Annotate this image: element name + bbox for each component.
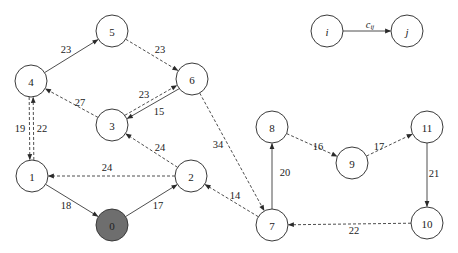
edge-3-to-6 — [125, 85, 177, 115]
edge-1-to-4 — [33, 97, 34, 160]
node-4: 4 — [15, 65, 47, 97]
edge-2-to-3 — [126, 134, 178, 167]
node-label: 11 — [422, 122, 433, 134]
edge-weight-7-2: 14 — [230, 190, 241, 201]
edge-weight-5-6: 23 — [155, 44, 166, 55]
edge-weight-3-6: 15 — [154, 106, 165, 117]
edge-weight-2-1: 24 — [102, 162, 113, 173]
graph-diagram: 232327231519222424181734142016172122 012… — [0, 0, 458, 253]
edge-weight-7-8: 20 — [280, 167, 291, 178]
edge-weight-4-1: 22 — [37, 123, 48, 134]
edge-5-to-6 — [126, 39, 178, 70]
node-6: 6 — [176, 63, 208, 95]
edge-weight-8-9: 16 — [313, 141, 324, 152]
edge-weight-9-11: 17 — [374, 141, 385, 152]
edge-4-to-1 — [29, 97, 30, 160]
edge-labels-layer: 232327231519222424181734142016172122 — [15, 44, 440, 236]
edge-1-to-0 — [46, 184, 98, 216]
node-11: 11 — [411, 111, 443, 143]
nodes-layer: 01234567891011 — [15, 15, 443, 241]
node-label: 3 — [109, 120, 115, 132]
node-label: 9 — [349, 158, 355, 170]
node-9: 9 — [336, 147, 368, 179]
legend-node-label: i — [325, 26, 328, 38]
edge-weight-1-4: 19 — [15, 123, 26, 134]
node-3: 3 — [96, 109, 128, 141]
edge-weight-4-5: 23 — [61, 44, 72, 55]
graph-svg: 232327231519222424181734142016172122 012… — [0, 0, 458, 253]
node-label: 0 — [109, 220, 115, 232]
edge-weight-2-3: 24 — [155, 142, 166, 153]
node-label: 1 — [29, 171, 35, 183]
node-label: 8 — [269, 122, 275, 134]
node-label: 6 — [189, 74, 195, 86]
node-8: 8 — [256, 111, 288, 143]
node-1: 1 — [16, 160, 48, 192]
node-label: 5 — [109, 26, 115, 38]
node-10: 10 — [411, 207, 443, 239]
legend-node-to: j — [391, 15, 423, 47]
legend-edge-label: cij — [366, 19, 375, 32]
node-label: 4 — [28, 76, 34, 88]
node-5: 5 — [96, 15, 128, 47]
edge-weight-1-0: 18 — [61, 200, 72, 211]
node-2: 2 — [175, 160, 207, 192]
node-label: 7 — [269, 220, 275, 232]
edge-weight-6-7: 34 — [213, 139, 224, 150]
edge-0-to-2 — [126, 185, 177, 217]
node-0: 0 — [96, 209, 128, 241]
node-7: 7 — [256, 209, 288, 241]
node-label: 2 — [188, 171, 194, 183]
edge-weight-0-2: 17 — [153, 200, 164, 211]
node-label: 10 — [422, 218, 434, 230]
edge-weight-11-10: 21 — [429, 168, 440, 179]
edge-weight-10-7: 22 — [349, 225, 360, 236]
edges-layer — [29, 31, 427, 225]
legend-node-from: i — [311, 15, 343, 47]
edge-weight-3-4: 27 — [75, 97, 86, 108]
edge-weight-6-3: 23 — [139, 89, 150, 100]
edge-4-to-5 — [45, 40, 98, 73]
edge-3-to-4 — [45, 89, 97, 117]
